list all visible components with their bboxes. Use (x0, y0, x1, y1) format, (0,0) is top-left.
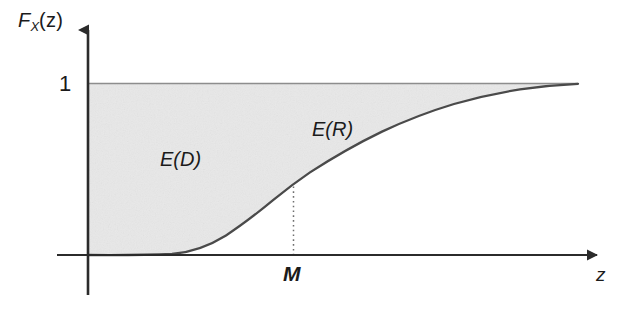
y-axis-label-tail: (z) (39, 9, 63, 31)
x-axis-tick-median: M (283, 262, 301, 286)
y-axis-label-subscript: X (30, 19, 39, 34)
y-axis-tick-one: 1 (59, 71, 71, 97)
x-axis-label: z (596, 264, 606, 286)
cdf-figure: FX(z) z 1 M E(D) E(R) (0, 0, 631, 314)
region-label-expected-remainder: E(R) (312, 118, 353, 141)
y-axis-label: FX(z) (18, 9, 63, 34)
region-label-expected-deficit: E(D) (160, 148, 201, 171)
y-axis-label-main: F (18, 9, 30, 31)
figure-canvas (0, 0, 631, 314)
